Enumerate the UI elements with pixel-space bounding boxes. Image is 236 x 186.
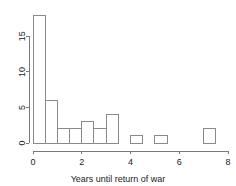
y-tick-label: 0 [17, 140, 27, 145]
y-tick-label: 10 [17, 67, 27, 77]
plot-area [33, 15, 216, 143]
histogram-bar [33, 15, 45, 143]
histogram-bar [82, 122, 94, 143]
histogram-bar [70, 129, 82, 143]
y-tick-label: 15 [17, 31, 27, 41]
bars-group [33, 15, 216, 143]
x-axis: 02468 [30, 151, 230, 167]
histogram-bar [204, 129, 216, 143]
histogram-bar [57, 129, 69, 143]
histogram-bar [131, 136, 143, 143]
histogram-bar [94, 129, 106, 143]
histogram-bar [45, 100, 57, 143]
x-tick-label: 6 [177, 157, 182, 167]
x-axis-title: Years until return of war [71, 174, 166, 184]
x-tick-label: 2 [79, 157, 84, 167]
x-tick-label: 0 [30, 157, 35, 167]
y-tick-label: 5 [17, 105, 27, 110]
x-tick-label: 8 [225, 157, 230, 167]
x-tick-label: 4 [128, 157, 133, 167]
histogram-bar [106, 115, 118, 143]
histogram-chart: 051015 02468 Years until return of war [0, 0, 236, 186]
x-tick-group: 02468 [30, 151, 230, 167]
histogram-bar [155, 136, 167, 143]
y-axis: 051015 [17, 31, 29, 145]
histogram-svg: 051015 02468 Years until return of war [0, 0, 236, 186]
y-tick-group: 051015 [17, 31, 29, 145]
